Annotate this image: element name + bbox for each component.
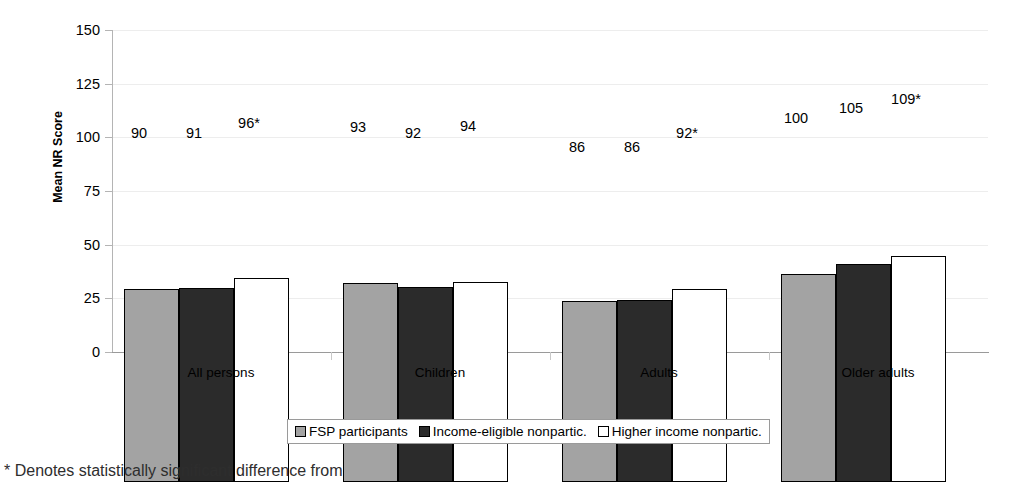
category-label-adults: Adults xyxy=(569,366,749,380)
legend-label: Income-eligible nonpartic. xyxy=(433,425,587,439)
y-tick-label-50: 50 xyxy=(40,237,100,252)
legend-label: FSP participants xyxy=(309,425,408,439)
bar-all-persons-fsp-participants[interactable] xyxy=(124,289,179,482)
gridline-125 xyxy=(112,84,988,85)
bar-all-persons-higher-income-nonpartic[interactable] xyxy=(234,278,289,482)
bar-chart: Mean NR Score 150 125 100 75 50 25 0 90 … xyxy=(0,0,1016,482)
bar-children-fsp-participants[interactable] xyxy=(343,283,398,482)
y-tick-label-150: 150 xyxy=(40,23,100,38)
footnote: * Denotes statistically significant diff… xyxy=(4,463,343,479)
y-tick-0 xyxy=(105,352,112,353)
gridline-150 xyxy=(112,30,988,31)
bar-adults-income-eligible-nonpartic[interactable] xyxy=(617,300,672,482)
gridline-100 xyxy=(112,137,988,138)
bar-value-label: 96* xyxy=(209,116,289,131)
y-axis-title: Mean NR Score xyxy=(51,67,65,247)
legend-item-fsp-participants[interactable]: FSP participants xyxy=(295,425,408,439)
y-tick-75 xyxy=(105,191,112,192)
category-label-all-persons: All persons xyxy=(131,366,311,380)
legend-swatch-icon xyxy=(598,426,609,437)
bar-children-higher-income-nonpartic[interactable] xyxy=(453,282,508,482)
y-tick-25 xyxy=(105,298,112,299)
bar-children-income-eligible-nonpartic[interactable] xyxy=(398,287,453,482)
bar-value-label: 86 xyxy=(592,140,672,155)
bar-all-persons-income-eligible-nonpartic[interactable] xyxy=(179,288,234,482)
y-tick-50 xyxy=(105,245,112,246)
bar-group-older-adults xyxy=(769,160,988,482)
legend-swatch-icon xyxy=(419,426,430,437)
y-tick-label-100: 100 xyxy=(40,130,100,145)
bar-adults-fsp-participants[interactable] xyxy=(562,301,617,482)
y-tick-label-125: 125 xyxy=(40,76,100,91)
bar-adults-higher-income-nonpartic[interactable] xyxy=(672,289,727,482)
y-tick-label-0: 0 xyxy=(40,345,100,360)
y-tick-label-25: 25 xyxy=(40,291,100,306)
legend: FSP participants Income-eligible nonpart… xyxy=(287,419,770,444)
legend-item-higher-income-nonpartic[interactable]: Higher income nonpartic. xyxy=(598,425,762,439)
category-label-older-adults: Older adults xyxy=(788,366,968,380)
bar-value-label: 92* xyxy=(647,126,727,141)
y-tick-150 xyxy=(105,30,112,31)
y-tick-125 xyxy=(105,84,112,85)
category-label-children: Children xyxy=(350,366,530,380)
bar-value-label: 94 xyxy=(428,119,508,134)
legend-item-income-eligible-nonpartic[interactable]: Income-eligible nonpartic. xyxy=(419,425,587,439)
bar-value-label: 109* xyxy=(866,92,946,107)
y-tick-label-75: 75 xyxy=(40,184,100,199)
legend-label: Higher income nonpartic. xyxy=(612,425,762,439)
legend-swatch-icon xyxy=(295,426,306,437)
